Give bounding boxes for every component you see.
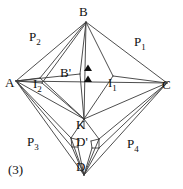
edge-A-to-Dprime-left	[16, 81, 71, 138]
vertex-label-K: K	[76, 118, 85, 131]
edge-A-to-B	[16, 22, 86, 81]
patch-label-P4: P4	[127, 137, 139, 154]
patch-label-P3-subscript: 3	[34, 142, 39, 152]
patch-label-P4-subscript: 4	[134, 144, 139, 154]
edge-Dprime-right-fold-top	[91, 139, 99, 141]
figure-number-label: (3)	[8, 163, 23, 176]
patch-label-P2-subscript: 2	[36, 37, 41, 47]
vertex-label-D-prime: D'	[76, 135, 88, 148]
edge-D-to-C	[84, 83, 167, 175]
figure-line-drawing	[0, 0, 183, 189]
vertex-label-I2-subscript: 2	[37, 84, 42, 94]
patch-label-P3: P3	[27, 135, 39, 152]
vertex-label-C: C	[162, 78, 171, 91]
vertex-label-B: B	[79, 5, 88, 18]
vertex-label-I2: I2	[33, 77, 42, 94]
patch-label-P2: P2	[29, 30, 41, 47]
edge-I2b-to-K	[42, 83, 84, 119]
patch-label-P1-subscript: 1	[141, 42, 146, 52]
edge-A-to-D	[16, 81, 84, 175]
edge-B-to-C	[86, 22, 167, 83]
patch-label-P1: P1	[134, 35, 146, 52]
vertex-label-D: D	[76, 160, 85, 173]
vertex-label-B-prime: B'	[60, 66, 71, 79]
polyhedron-figure: A B C D K B' D' I1 I2 P1 P2 P3 P4 (3)	[0, 0, 183, 189]
vertex-label-I1: I1	[108, 76, 117, 93]
edge-Dprime-right-fold-left	[91, 141, 92, 148]
edge-A-to-Dprime-low	[16, 81, 72, 147]
vertex-label-I1-subscript: 1	[112, 83, 117, 93]
edge-Bprime-to-K	[80, 74, 84, 119]
vertex-label-A: A	[5, 76, 14, 89]
